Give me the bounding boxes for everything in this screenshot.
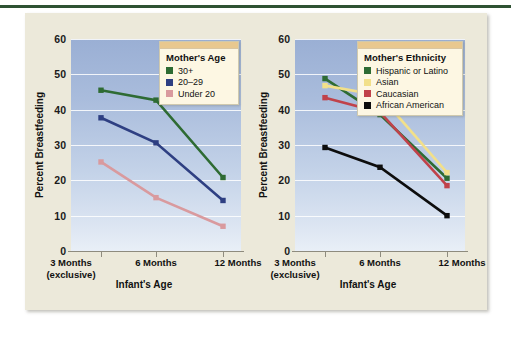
series-line [101,162,223,226]
x-category-6-months-left: 6 Months [135,257,177,269]
series-line [325,147,447,215]
legend-item-label: 20–29 [178,77,203,87]
x-tick-mark [325,251,326,257]
legend-swatch-icon [166,67,173,74]
x-category-6-months-right: 6 Months [359,257,401,269]
top-rule-divider [0,5,511,8]
legend-item[interactable]: Under 20 [160,88,238,100]
x-category-label-main: 12 Months [215,257,262,269]
data-point-marker [444,170,449,175]
legend-item[interactable]: Asian [358,77,462,89]
y-tick-label: 10 [278,210,290,222]
figure-root: Percent Breastfeeding 0102030405060 Moth… [0,0,511,337]
data-point-marker [220,198,225,203]
legend-item-label: Asian [376,77,399,87]
chart-panel-mothers-ethnicity: Percent Breastfeeding 0102030405060 Moth… [257,23,479,300]
legend-item[interactable]: 30+ [160,65,238,77]
data-point-marker [444,213,449,218]
y-tick-label: 40 [54,104,66,116]
data-point-marker [153,195,158,200]
data-point-marker [220,224,225,229]
data-point-marker [377,165,382,170]
y-tick-label: 20 [54,174,66,186]
y-tick-label: 60 [54,33,66,45]
data-point-marker [322,145,327,150]
y-tick-label: 0 [284,245,290,257]
legend-item-label: Caucasian [376,89,419,99]
data-point-marker [98,115,103,120]
legend-header-bar-right [358,42,462,49]
legend-swatch-icon [364,67,371,74]
x-category-label-main: 3 Months [46,257,95,269]
data-point-marker [98,88,103,93]
chart-card: Percent Breastfeeding 0102030405060 Moth… [25,13,487,310]
y-tick-label: 60 [278,33,290,45]
y-tick-label: 10 [54,210,66,222]
x-category-label-main: 6 Months [135,257,177,269]
legend-title-left: Mother's Age [160,49,238,65]
x-category-3-months-right: 3 Months (exclusive) [270,257,319,281]
y-tick-label: 40 [278,104,290,116]
x-category-label-main: 6 Months [359,257,401,269]
y-tick-label: 50 [278,68,290,80]
y-tick-label: 50 [54,68,66,80]
x-category-12-months-left: 12 Months [215,257,262,269]
legend-mothers-age[interactable]: Mother's Age 30+20–29Under 20 [159,41,239,105]
plot-area-right: 0102030405060 Mother's Ethnicity Hispani… [295,39,465,251]
data-point-marker [444,183,449,188]
x-category-12-months-right: 12 Months [439,257,486,269]
legend-items-right: Hispanic or LatinoAsianCaucasianAfrican … [358,65,462,111]
legend-item[interactable]: African American [358,100,462,112]
legend-title-right: Mother's Ethnicity [358,49,462,65]
x-axis-title-left: Infant's Age [33,279,255,290]
series-line [101,118,223,201]
data-point-marker [98,159,103,164]
legend-item[interactable]: 20–29 [160,77,238,89]
data-point-marker [153,97,158,102]
legend-mothers-ethnicity[interactable]: Mother's Ethnicity Hispanic or LatinoAsi… [357,41,463,116]
legend-item-label: 30+ [178,66,193,76]
legend-swatch-icon [364,79,371,86]
legend-swatch-icon [166,79,173,86]
y-tick-label: 20 [278,174,290,186]
data-point-marker [220,175,225,180]
x-axis-title-right: Infant's Age [257,279,479,290]
legend-item-label: African American [376,100,444,110]
legend-item[interactable]: Caucasian [358,88,462,100]
y-tick-label: 30 [54,139,66,151]
y-tick-label: 0 [60,245,66,257]
data-point-marker [322,95,327,100]
x-category-label-main: 12 Months [439,257,486,269]
x-tick-mark [101,251,102,257]
x-category-label-main: 3 Months [270,257,319,269]
y-axis-title-left: Percent Breastfeeding [34,92,45,198]
data-point-marker [444,176,449,181]
legend-item[interactable]: Hispanic or Latino [358,65,462,77]
legend-items-left: 30+20–29Under 20 [160,65,238,100]
chart-panel-mothers-age: Percent Breastfeeding 0102030405060 Moth… [33,23,255,300]
y-axis-title-right: Percent Breastfeeding [258,92,269,198]
legend-swatch-icon [364,90,371,97]
data-point-marker [322,76,327,81]
legend-swatch-icon [166,90,173,97]
legend-swatch-icon [364,102,371,109]
legend-header-bar-left [160,42,238,49]
x-category-3-months-left: 3 Months (exclusive) [46,257,95,281]
legend-item-label: Hispanic or Latino [376,66,448,76]
legend-item-label: Under 20 [178,89,215,99]
data-point-marker [322,83,327,88]
y-tick-label: 30 [278,139,290,151]
plot-area-left: 0102030405060 Mother's Age 30+20–29Under… [71,39,241,251]
data-point-marker [153,140,158,145]
